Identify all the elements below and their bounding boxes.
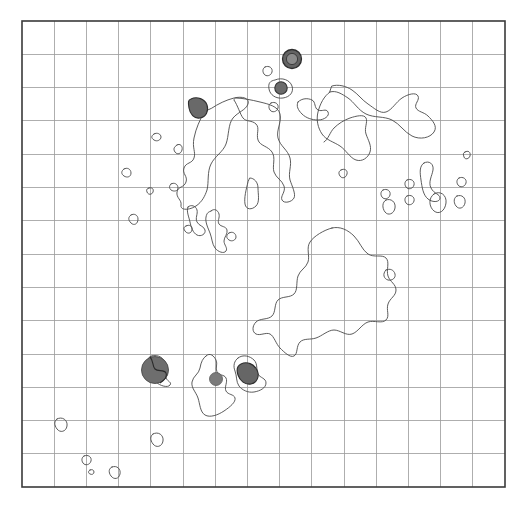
map-canvas [0,0,523,508]
filled-blob [210,373,223,386]
map-figure [0,0,523,508]
filled-blob [283,50,302,69]
filled-blob [142,357,169,384]
